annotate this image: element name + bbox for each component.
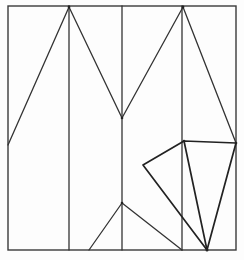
vertex-dot xyxy=(121,117,124,120)
vertex-dots xyxy=(68,6,238,252)
vertex-dot xyxy=(235,142,238,145)
vertex-dot xyxy=(68,6,71,9)
kite-outline xyxy=(143,141,236,250)
kite-shape xyxy=(143,141,236,250)
vertex-dot xyxy=(183,140,186,143)
vertex-dot xyxy=(182,6,185,9)
bottom-tent xyxy=(89,203,182,250)
vertex-dot xyxy=(206,249,209,252)
folding-diagram xyxy=(0,0,244,260)
vertex-dot xyxy=(121,202,124,205)
